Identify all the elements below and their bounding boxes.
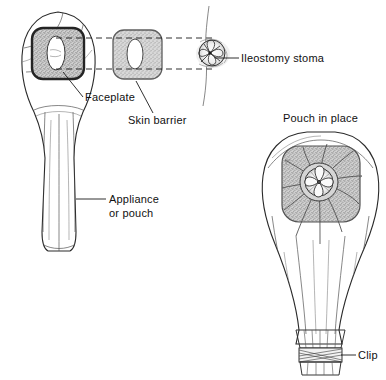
faceplate bbox=[32, 28, 84, 79]
stoma-dome bbox=[199, 40, 225, 66]
label-ileostomy-stoma: Ileostomy stoma bbox=[241, 52, 325, 64]
ostomy-appliance-diagram: Faceplate Skin barrier Ileostomy stoma A… bbox=[0, 0, 386, 380]
pouch-in-place-stoma bbox=[300, 163, 338, 201]
label-pouch-in-place: Pouch in place bbox=[283, 112, 358, 124]
faceplate-opening bbox=[47, 36, 65, 70]
clip bbox=[296, 330, 345, 375]
label-appliance-line2: or pouch bbox=[109, 207, 153, 219]
clip-tail-pleats bbox=[307, 362, 333, 375]
pouch-in-place bbox=[262, 132, 379, 375]
label-clip: Clip bbox=[358, 349, 378, 361]
leader-skin-barrier bbox=[136, 81, 153, 113]
skin-barrier bbox=[113, 30, 162, 79]
diagram-canvas: Faceplate Skin barrier Ileostomy stoma A… bbox=[0, 0, 386, 380]
clip-tail bbox=[300, 362, 341, 375]
label-faceplate: Faceplate bbox=[85, 91, 135, 103]
clip-gather-pleats bbox=[304, 330, 336, 348]
label-appliance-line1: Appliance bbox=[109, 193, 159, 205]
ileostomy-stoma bbox=[196, 6, 230, 106]
label-skin-barrier: Skin barrier bbox=[128, 114, 187, 126]
clip-gather-upper bbox=[296, 330, 345, 348]
appliance-pouch-front bbox=[22, 12, 95, 251]
skin-barrier-opening bbox=[127, 39, 143, 69]
